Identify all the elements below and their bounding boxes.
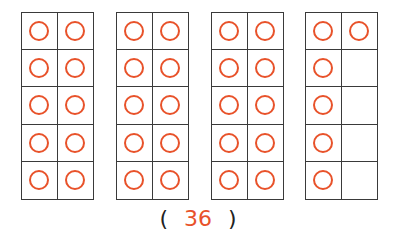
frame-cell xyxy=(153,162,189,199)
circle-icon xyxy=(29,21,49,41)
frame-cell xyxy=(22,50,58,87)
circle-icon xyxy=(313,21,333,41)
circle-icon xyxy=(29,95,49,115)
frame-cell xyxy=(342,87,378,124)
circle-icon xyxy=(219,58,239,78)
frame-cell xyxy=(117,50,153,87)
frame-cell xyxy=(248,50,284,87)
answer-line: (36) xyxy=(0,206,396,231)
circle-icon xyxy=(160,21,180,41)
frame-cell xyxy=(153,125,189,162)
close-paren: ) xyxy=(228,206,237,231)
open-paren: ( xyxy=(159,206,168,231)
answer-value: 36 xyxy=(184,206,212,231)
frame-cell xyxy=(306,50,342,87)
frame-cell xyxy=(306,87,342,124)
frame-cell xyxy=(58,13,94,50)
frame-cell xyxy=(306,13,342,50)
ten-frame-1 xyxy=(21,12,94,200)
frame-cell xyxy=(248,162,284,199)
circle-icon xyxy=(255,95,275,115)
circle-icon xyxy=(65,170,85,190)
frame-cell xyxy=(342,13,378,50)
frame-cell xyxy=(58,87,94,124)
frame-cell xyxy=(306,162,342,199)
circle-icon xyxy=(65,21,85,41)
frame-cell xyxy=(248,87,284,124)
circle-icon xyxy=(160,133,180,153)
frame-cell xyxy=(153,87,189,124)
circle-icon xyxy=(313,58,333,78)
circle-icon xyxy=(65,58,85,78)
ten-frame-2 xyxy=(116,12,189,200)
circle-icon xyxy=(160,170,180,190)
circle-icon xyxy=(219,170,239,190)
frame-cell xyxy=(212,87,248,124)
circle-icon xyxy=(124,58,144,78)
circle-icon xyxy=(255,133,275,153)
circle-icon xyxy=(160,58,180,78)
circle-icon xyxy=(255,21,275,41)
frame-cell xyxy=(117,125,153,162)
frame-cell xyxy=(212,13,248,50)
frame-cell xyxy=(153,50,189,87)
circle-icon xyxy=(349,21,369,41)
circle-icon xyxy=(313,95,333,115)
ten-frame-4 xyxy=(305,12,378,200)
circle-icon xyxy=(255,170,275,190)
circle-icon xyxy=(124,133,144,153)
circle-icon xyxy=(65,133,85,153)
frame-cell xyxy=(117,87,153,124)
frame-cell xyxy=(342,125,378,162)
circle-icon xyxy=(313,133,333,153)
circle-icon xyxy=(219,95,239,115)
circle-icon xyxy=(29,58,49,78)
circle-icon xyxy=(124,170,144,190)
frame-cell xyxy=(212,50,248,87)
frame-cell xyxy=(248,125,284,162)
circle-icon xyxy=(219,21,239,41)
frame-cell xyxy=(22,125,58,162)
circle-icon xyxy=(219,133,239,153)
frame-cell xyxy=(248,13,284,50)
circle-icon xyxy=(29,133,49,153)
circle-icon xyxy=(65,95,85,115)
circle-icon xyxy=(124,21,144,41)
frame-cell xyxy=(342,50,378,87)
circle-icon xyxy=(313,170,333,190)
frame-cell xyxy=(212,162,248,199)
ten-frame-3 xyxy=(211,12,284,200)
frame-cell xyxy=(58,125,94,162)
frame-cell xyxy=(22,13,58,50)
circle-icon xyxy=(29,170,49,190)
frame-cell xyxy=(58,162,94,199)
frame-cell xyxy=(58,50,94,87)
circle-icon xyxy=(124,95,144,115)
frame-cell xyxy=(342,162,378,199)
frame-cell xyxy=(153,13,189,50)
frame-cell xyxy=(117,13,153,50)
frame-cell xyxy=(22,162,58,199)
frame-cell xyxy=(117,162,153,199)
frame-cell xyxy=(22,87,58,124)
frame-cell xyxy=(212,125,248,162)
circle-icon xyxy=(160,95,180,115)
frame-cell xyxy=(306,125,342,162)
circle-icon xyxy=(255,58,275,78)
